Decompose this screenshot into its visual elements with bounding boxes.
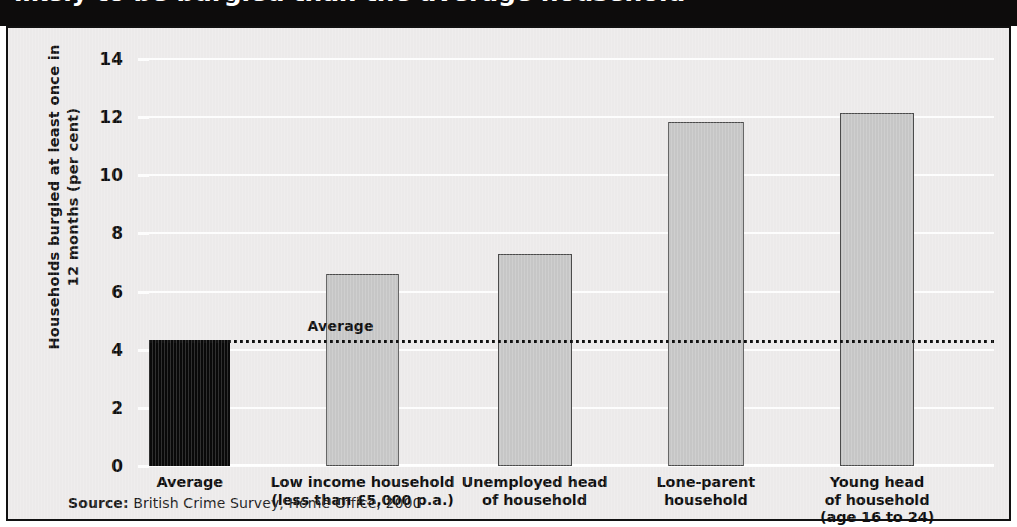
y-axis-tick-label: 14 [83,49,123,69]
y-axis-tick-label: 10 [83,165,123,185]
chart-title: likely to be burgled than the average ho… [14,0,1004,6]
bar [840,113,914,466]
source-text: British Crime Survey, Home Office, 2000 [129,495,422,511]
y-axis-tick-label: 6 [83,282,123,302]
y-axis-tick-label: 2 [83,398,123,418]
y-axis-tick-label: 8 [83,223,123,243]
bar [668,122,743,466]
x-axis-category-line: (age 16 to 24) [767,509,987,527]
source-note: Source: British Crime Survey, Home Offic… [68,495,422,511]
source-label: Source: [68,495,129,511]
y-axis-tick-mark [138,407,149,410]
bar [149,340,230,466]
y-axis-title: Households burgled at least once in 12 m… [45,37,83,357]
plot-area: 02468101214 Average [149,59,994,466]
bar [326,274,400,466]
y-axis-tick-mark [138,174,149,177]
average-reference-line [149,340,994,343]
y-axis-tick-mark [138,116,149,119]
chart-frame: Households burgled at least once in 12 m… [6,26,1011,521]
x-axis-category-line: of household [767,492,987,510]
chart-figure: likely to be burgled than the average ho… [0,0,1017,527]
y-axis-tick-mark [138,58,149,61]
y-axis-tick-label: 4 [83,340,123,360]
y-axis-tick-label: 12 [83,107,123,127]
x-axis-category-line: Young head [767,474,987,492]
x-axis-category-label: Young headof household(age 16 to 24) [767,474,987,527]
bar [498,254,572,466]
y-axis-tick-mark [138,232,149,235]
y-axis-tick-mark [138,349,149,352]
gridline [149,58,994,60]
y-axis-tick-mark [138,465,149,468]
y-axis-tick-label: 0 [83,456,123,476]
y-axis-tick-mark [138,291,149,294]
chart-title-band: likely to be burgled than the average ho… [0,0,1017,26]
average-reference-label: Average [308,318,374,334]
